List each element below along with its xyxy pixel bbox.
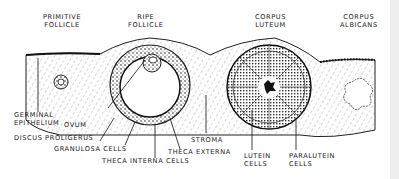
label-line: GERMINAL: [14, 111, 59, 119]
ripe-follicle-shape: [110, 45, 190, 125]
label-stroma: STROMA: [191, 136, 223, 144]
label-line: CELLS: [244, 160, 271, 168]
label-paralutein-cells: PARALUTEIN CELLS: [289, 152, 335, 168]
label-theca-externa: THECA EXTERNA: [168, 148, 231, 156]
label-line: PARALUTEIN: [289, 152, 335, 160]
label-line: EPITHELIUM: [14, 119, 59, 127]
label-line: ALBICANS: [340, 21, 378, 29]
label-lutein-cells: LUTEIN CELLS: [244, 152, 271, 168]
label-line: RIPE: [128, 13, 164, 21]
label-line: FOLLICLE: [128, 21, 164, 29]
label-line: FOLLICLE: [43, 21, 81, 29]
label-ripe-follicle: RIPE FOLLICLE: [128, 13, 164, 29]
ovary-diagram: PRIMITIVE FOLLICLE RIPE FOLLICLE CORPUS …: [0, 0, 399, 179]
label-line: LUTEIN: [244, 152, 271, 160]
label-discus-proligerus: DISCUS PROLIGERUS: [14, 134, 93, 142]
label-theca-interna-cells: THECA INTERNA CELLS: [102, 157, 189, 165]
label-line: LUTEUM: [255, 21, 286, 29]
label-granulosa-cells: GRANULOSA CELLS: [54, 145, 127, 153]
label-line: CORPUS: [255, 13, 286, 21]
label-corpus-luteum: CORPUS LUTEUM: [255, 13, 286, 29]
primitive-follicle-shape: [54, 75, 68, 89]
label-line: CORPUS: [340, 13, 378, 21]
label-line: CELLS: [289, 160, 335, 168]
label-corpus-albicans: CORPUS ALBICANS: [340, 13, 378, 29]
label-ovum: OVUM: [64, 121, 87, 129]
label-primitive-follicle: PRIMITIVE FOLLICLE: [43, 13, 81, 29]
label-line: PRIMITIVE: [43, 13, 81, 21]
corpus-luteum-shape: [227, 45, 311, 129]
label-germinal-epithelium: GERMINAL EPITHELIUM: [14, 111, 59, 127]
